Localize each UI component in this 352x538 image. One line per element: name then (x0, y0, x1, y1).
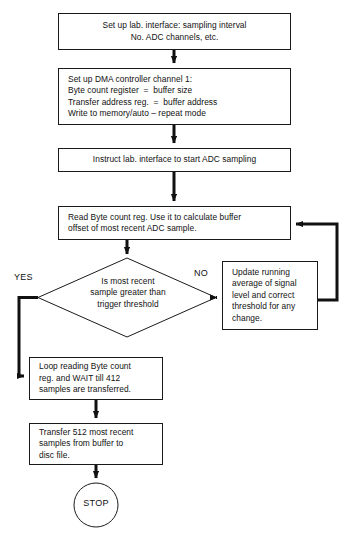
node-loop-reading-wait: Loop reading Byte count reg. and WAIT ti… (29, 357, 163, 400)
node-transfer-samples-to-disc: Transfer 512 most recent samples from bu… (29, 423, 163, 465)
node-decision-trigger-threshold: Is most recent sample greater than trigg… (48, 276, 208, 310)
node-update-line-2: average of signal (232, 278, 317, 289)
node-setup-lab-interface: Set up lab. interface: sampling interval… (58, 13, 291, 50)
node-setup-dma-controller: Set up DMA controller channel 1: Byte co… (58, 68, 291, 125)
node-instruct-lab-interface: Instruct lab. interface to start ADC sam… (58, 148, 291, 172)
node-update-line-3: level and correct (232, 290, 317, 301)
node-stop-label: STOP (74, 498, 118, 508)
node-decision-line-2: sample greater than (48, 287, 208, 298)
node-read-line-1: Read Byte count reg. Use it to calculate… (68, 212, 290, 223)
edge-label-no: NO (194, 268, 208, 278)
node-decision-line-3: trigger threshold (48, 299, 208, 310)
edge-label-yes: YES (14, 272, 33, 282)
node-transfer-line-1: Transfer 512 most recent (39, 427, 162, 438)
node-read-line-2: offset of most recent ADC sample. (68, 223, 290, 234)
node-setup-dma-line-1: Set up DMA controller channel 1: (68, 74, 290, 85)
node-setup-dma-line-2: Byte count register = buffer size (68, 85, 290, 96)
node-update-line-4: threshold for any (232, 301, 317, 312)
flowchart-canvas: Set up lab. interface: sampling interval… (0, 0, 352, 538)
node-setup-lab-line-1: Set up lab. interface: sampling interval (59, 20, 290, 31)
node-loop-line-3: samples are transferred. (39, 384, 162, 395)
node-update-line-5: change. (232, 313, 317, 324)
node-setup-dma-line-3: Transfer address reg. = buffer address (68, 97, 290, 108)
node-loop-line-1: Loop reading Byte count (39, 361, 162, 372)
node-transfer-line-3: disc file. (39, 450, 162, 461)
node-loop-line-2: reg. and WAIT till 412 (39, 373, 162, 384)
node-setup-lab-line-2: No. ADC channels, etc. (59, 32, 290, 43)
node-read-byte-count: Read Byte count reg. Use it to calculate… (58, 206, 291, 240)
node-decision-line-1: Is most recent (48, 276, 208, 287)
node-instruct-line-1: Instruct lab. interface to start ADC sam… (59, 154, 290, 165)
node-update-line-1: Update running (232, 267, 317, 278)
node-setup-dma-line-4: Write to memory/auto – repeat mode (68, 108, 290, 119)
node-transfer-line-2: samples from buffer to (39, 438, 162, 449)
node-update-running-average: Update running average of signal level a… (222, 261, 318, 330)
